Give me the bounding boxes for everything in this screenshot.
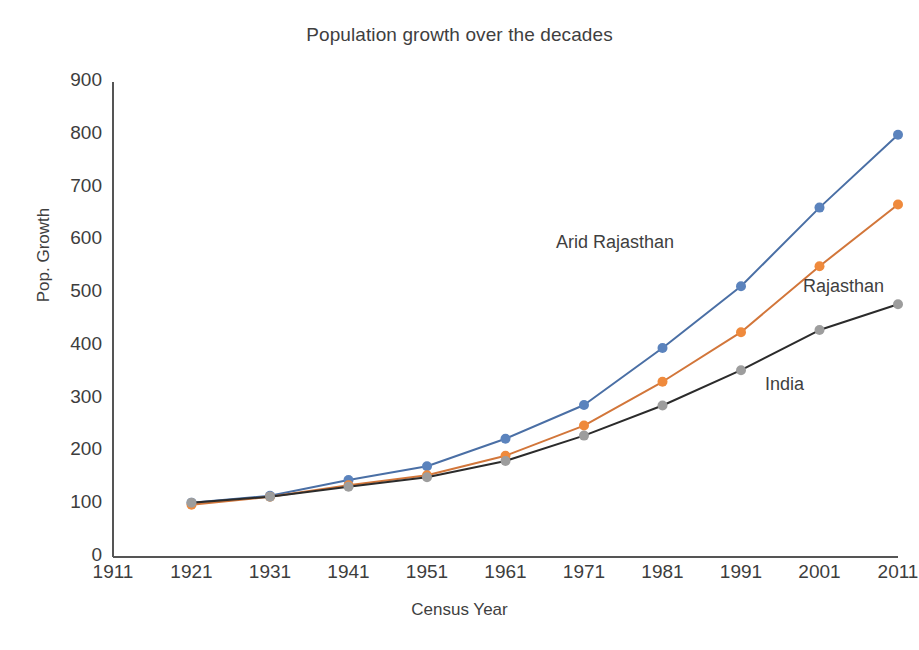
data-point-marker [501,434,511,444]
series-group [187,130,904,510]
x-tick-label: 1981 [623,561,703,583]
x-tick-label: 1951 [387,561,467,583]
data-point-marker [815,261,825,271]
data-point-marker [422,472,432,482]
series-arid-rajasthan [187,130,904,508]
data-point-marker [579,421,589,431]
data-point-marker [815,325,825,335]
series-annotation: Arid Rajasthan [556,232,674,253]
x-tick-label: 1931 [230,561,310,583]
data-point-marker [187,498,197,508]
data-point-marker [815,203,825,213]
data-point-marker [579,431,589,441]
axis-lines [113,82,898,557]
data-point-marker [265,492,275,502]
data-point-marker [658,377,668,387]
series-line [192,304,899,502]
chart-container: Population growth over the decades Pop. … [0,0,919,650]
x-tick-label: 1991 [701,561,781,583]
data-point-marker [893,199,903,209]
x-tick-label: 2011 [858,561,919,583]
data-point-marker [893,130,903,140]
x-tick-label: 1921 [152,561,232,583]
series-annotation: Rajasthan [803,276,884,297]
series-india [187,299,904,507]
x-tick-label: 1911 [73,561,153,583]
x-tick-label: 1941 [309,561,389,583]
plot-area [0,0,919,650]
data-point-marker [658,343,668,353]
x-tick-label: 2001 [780,561,860,583]
data-point-marker [893,299,903,309]
data-point-marker [736,327,746,337]
series-line [192,204,899,504]
series-annotation: India [765,374,804,395]
data-point-marker [344,482,354,492]
data-point-marker [736,365,746,375]
x-tick-label: 1961 [466,561,546,583]
data-point-marker [501,456,511,466]
data-point-marker [579,400,589,410]
data-point-marker [658,401,668,411]
data-point-marker [736,281,746,291]
series-rajasthan [187,199,904,509]
x-tick-label: 1971 [544,561,624,583]
data-point-marker [422,461,432,471]
